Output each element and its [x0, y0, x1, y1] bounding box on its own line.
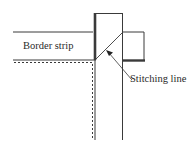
leader-line: [109, 53, 132, 80]
stitching-line-label: Stitching line: [130, 74, 186, 85]
arrowhead-icon: [106, 50, 113, 56]
border-strip-label: Border strip: [23, 41, 73, 52]
